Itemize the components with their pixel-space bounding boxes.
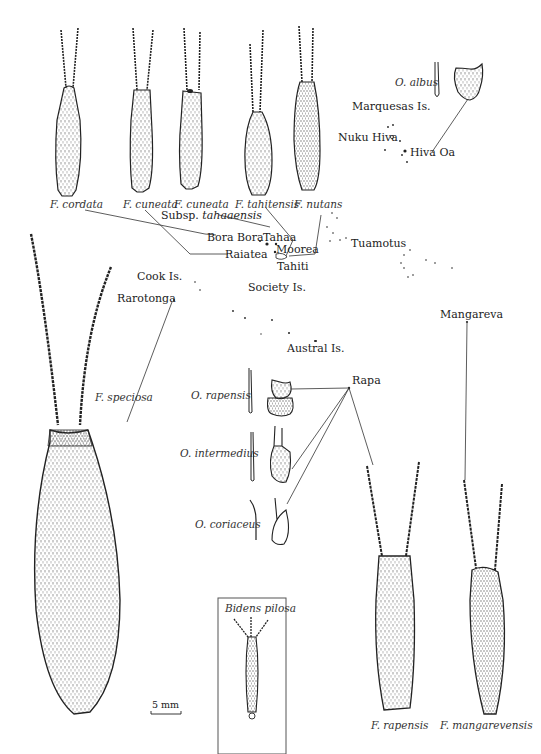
leader-albus-hivaoa <box>432 99 468 152</box>
scale-bar <box>151 711 181 714</box>
label-subsp-tahaaensis: Subsp. tahaaensis <box>161 210 262 221</box>
subsp-prefix: Subsp. <box>161 209 199 222</box>
label-rapa: Rapa <box>352 375 381 386</box>
label-tahiti: Tahiti <box>277 261 309 272</box>
achene-f-cordata <box>56 28 81 196</box>
label-mangareva: Mangareva <box>440 309 503 320</box>
achene-o-albus <box>435 62 483 100</box>
achene-f-mangarevensis <box>464 480 504 714</box>
subsp-name: tahaaensis <box>202 209 262 222</box>
label-nuku-hiva: Nuku Hiva <box>338 132 398 143</box>
label-bora-bora: Bora Bora <box>207 232 264 243</box>
label-tahaa: Tahaa <box>263 232 296 243</box>
label-f-mangarevensis: F. mangarevensis <box>440 720 533 731</box>
label-hiva-oa: Hiva Oa <box>410 147 455 158</box>
label-bidens-pilosa: Bidens pilosa <box>225 603 296 614</box>
label-f-rapensis: F. rapensis <box>371 720 428 731</box>
label-austral-is: Austral Is. <box>287 343 344 354</box>
achene-f-cuneata-2 <box>180 28 203 189</box>
label-o-rapensis: O. rapensis <box>191 390 251 401</box>
figure-canvas <box>0 0 541 754</box>
label-f-cordata: F. cordata <box>50 199 103 210</box>
label-raiatea: Raiatea <box>225 249 268 260</box>
label-o-coriaceus: O. coriaceus <box>195 519 261 530</box>
label-scale-5mm: 5 mm <box>152 700 179 710</box>
label-rarotonga: Rarotonga <box>117 293 176 304</box>
label-f-cuneata-1: F. cuneata <box>123 199 178 210</box>
achene-f-cuneata-1 <box>130 28 153 192</box>
label-o-albus: O. albus <box>395 77 438 88</box>
achene-o-rapensis <box>249 368 293 416</box>
label-marquesas: Marquesas Is. <box>352 101 431 112</box>
label-f-tahitensis: F. tahitensis <box>235 199 299 210</box>
label-o-intermedius: O. intermedius <box>180 448 259 459</box>
label-cook-is: Cook Is. <box>137 271 182 282</box>
label-society-is: Society Is. <box>248 282 306 293</box>
achene-f-tahitensis <box>245 30 272 195</box>
achene-f-speciosa <box>31 234 120 714</box>
label-f-speciosa: F. speciosa <box>95 392 153 403</box>
bidens-inset <box>218 598 286 754</box>
label-f-cuneata-2: F. cuneata <box>174 199 229 210</box>
label-tuamotus: Tuamotus <box>351 238 406 249</box>
label-moorea: Moorea <box>276 244 319 255</box>
achene-f-nutans <box>294 26 320 190</box>
label-f-nutans: F. nutans <box>294 199 342 210</box>
achene-f-rapensis <box>367 462 419 710</box>
